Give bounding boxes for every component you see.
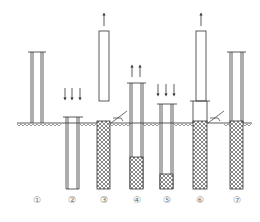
step-2-label: ② (68, 195, 76, 205)
step-7-pipe (227, 52, 246, 189)
step-4-pipe (127, 83, 146, 189)
step-4-arrows-up (132, 66, 140, 77)
step-5-label: ⑤ (163, 195, 171, 205)
step-6-core-lifted (196, 14, 206, 101)
pile-construction-diagram: ① ② ③ ④ ⑤ ⑥ ⑦ (0, 0, 260, 222)
step-4-label: ④ (133, 195, 141, 205)
step-1-pipe (28, 52, 46, 123)
step-5-pipe (157, 104, 177, 189)
ground-surface (17, 123, 252, 126)
step-2-arrows-down (65, 88, 80, 99)
step-2-pipe (63, 117, 83, 189)
step-6-pipe (190, 101, 210, 189)
step-3-hopper (111, 111, 127, 123)
step-7-label: ⑦ (233, 195, 241, 205)
step-5-arrows-down (158, 84, 174, 95)
step-3-filled-column (97, 121, 110, 189)
step-1-label: ① (33, 195, 41, 205)
step-6-label: ⑥ (196, 195, 204, 205)
step-6-hopper (208, 111, 224, 123)
step-labels: ① ② ③ ④ ⑤ ⑥ ⑦ (33, 195, 241, 205)
step-3-label: ③ (100, 195, 108, 205)
step-3-core-lifted (99, 14, 109, 101)
